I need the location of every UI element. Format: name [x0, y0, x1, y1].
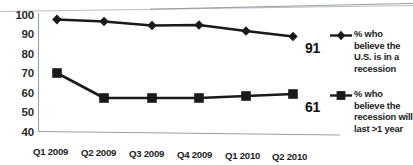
x-tick-label: Q1 2009	[33, 146, 68, 157]
legend-entry-recession-now[interactable]: % who believe the U.S. is in a recession	[330, 28, 413, 74]
x-tick-label: Q3 2009	[129, 148, 164, 159]
series-line-recession-now	[57, 20, 293, 37]
x-tick-label: Q2 2009	[81, 147, 116, 158]
x-axis-line	[38, 132, 340, 136]
x-tick-label: Q2 2010	[272, 151, 307, 162]
x-tick-label: Q4 2009	[177, 149, 212, 160]
legend-square-marker-icon	[330, 90, 352, 101]
data-label-series2: 61	[305, 99, 320, 115]
series-markers-recession-now	[52, 15, 298, 42]
legend-entry-recession-duration[interactable]: % who believe the recession will last >1…	[330, 88, 413, 134]
legend-diamond-marker-icon	[330, 30, 352, 41]
data-label-series1: 91	[305, 40, 320, 56]
plot-area	[0, 0, 413, 165]
legend-label: % who believe the U.S. is in a recession	[354, 28, 413, 74]
chart-container: 100 90 80 70 60 50 40	[0, 0, 413, 165]
legend-label: % who believe the recession will last >1…	[354, 88, 413, 134]
series-line-recession-duration	[57, 73, 293, 98]
x-tick-label: Q1 2010	[225, 150, 260, 161]
